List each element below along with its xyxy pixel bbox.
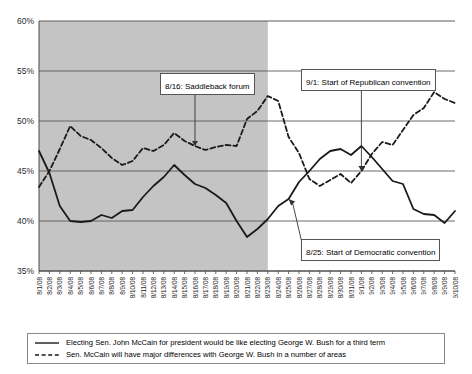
x-axis-tick-label: 8/3/08 — [56, 277, 63, 295]
x-axis-ticks — [39, 271, 455, 274]
y-axis-tick-label: 40% — [17, 216, 34, 226]
y-axis-tick-label: 50% — [17, 116, 34, 126]
x-axis-tick-label: 8/12/08 — [150, 277, 157, 299]
y-axis-tick-label: 35% — [17, 266, 34, 276]
x-axis-tick-label: 8/28/08 — [316, 277, 323, 299]
x-axis-tick-label: 8/20/08 — [233, 277, 240, 299]
legend-swatch-solid-icon — [34, 339, 60, 347]
legend-item-solid: Electing Sen. John McCain for president … — [34, 338, 438, 347]
x-axis-tick-label: 8/21/08 — [244, 277, 251, 299]
x-axis-tick-label: 8/22/08 — [254, 277, 261, 299]
x-axis-tick-label: 8/2/08 — [46, 277, 53, 295]
x-axis-tick-label: 8/24/08 — [275, 277, 282, 299]
legend-label-dashed: Sen. McCain will have major differences … — [66, 350, 346, 359]
x-axis-tick-label: 8/13/08 — [160, 277, 167, 299]
legend-item-dashed: Sen. McCain will have major differences … — [34, 350, 438, 359]
x-axis-tick-label: 8/11/08 — [140, 277, 147, 298]
chart-legend: Electing Sen. John McCain for president … — [27, 333, 445, 364]
x-axis-tick-label: 9/10/08 — [452, 277, 459, 299]
x-axis-tick-label: 8/1/08 — [36, 277, 43, 295]
x-axis-tick-label: 8/7/08 — [98, 277, 105, 295]
x-axis-tick-label: 8/23/08 — [264, 277, 271, 299]
x-axis-tick-label: 9/3/08 — [379, 277, 386, 295]
chart-canvas: 35%40%45%50%55%60% 8/1/088/2/088/3/088/4… — [0, 0, 472, 374]
x-axis-tick-label: 9/8/08 — [431, 277, 438, 295]
x-axis-tick-label: 8/29/08 — [327, 277, 334, 299]
y-axis-tick-labels: 35%40%45%50%55%60% — [17, 16, 34, 276]
x-axis-tick-label: 8/27/08 — [306, 277, 313, 299]
x-axis-tick-labels: 8/1/088/2/088/3/088/4/088/5/088/6/088/7/… — [36, 277, 459, 299]
x-axis-tick-label: 8/14/08 — [171, 277, 178, 299]
x-axis-tick-label: 8/17/08 — [202, 277, 209, 299]
x-axis-tick-label: 8/10/08 — [129, 277, 136, 299]
x-axis-tick-label: 8/15/08 — [181, 277, 188, 299]
plot-background — [39, 21, 455, 271]
x-axis-tick-label: 8/19/08 — [223, 277, 230, 299]
x-axis-tick-label: 8/5/08 — [77, 277, 84, 295]
x-axis-tick-label: 9/7/08 — [420, 277, 427, 295]
x-axis-tick-label: 8/18/08 — [212, 277, 219, 299]
y-axis-tick-label: 60% — [17, 16, 34, 26]
x-axis-tick-label: 9/6/08 — [410, 277, 417, 295]
x-axis-tick-label: 8/26/08 — [296, 277, 303, 299]
x-axis-tick-label: 9/1/08 — [358, 277, 365, 295]
x-axis-tick-label: 8/16/08 — [192, 277, 199, 299]
x-axis-tick-label: 8/6/08 — [88, 277, 95, 295]
x-axis-tick-label: 9/4/08 — [389, 277, 396, 295]
poll-trend-chart: 35%40%45%50%55%60% 8/1/088/2/088/3/088/4… — [0, 0, 472, 374]
x-axis-tick-label: 8/4/08 — [67, 277, 74, 295]
x-axis-tick-label: 8/31/08 — [348, 277, 355, 299]
x-axis-tick-label: 9/5/08 — [400, 277, 407, 295]
y-axis-tick-label: 45% — [17, 166, 34, 176]
x-axis-tick-label: 8/9/08 — [119, 277, 126, 295]
x-axis-tick-label: 9/2/08 — [368, 277, 375, 295]
x-axis-tick-label: 9/9/08 — [441, 277, 448, 295]
x-axis-tick-label: 8/30/08 — [337, 277, 344, 299]
x-axis-tick-label: 8/25/08 — [285, 277, 292, 299]
x-axis-tick-label: 8/8/08 — [108, 277, 115, 295]
y-axis-tick-label: 55% — [17, 66, 34, 76]
legend-label-solid: Electing Sen. John McCain for president … — [66, 338, 385, 347]
legend-swatch-dashed-icon — [34, 351, 60, 359]
